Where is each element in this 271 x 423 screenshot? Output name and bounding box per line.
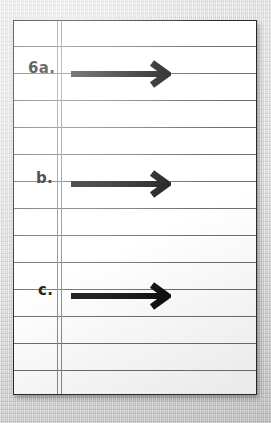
rule-line <box>14 262 256 263</box>
rule-line <box>14 100 256 101</box>
item-label-b: b. <box>36 171 53 186</box>
arrow-shaft <box>71 293 162 299</box>
arrow-shaft <box>71 71 162 77</box>
right-arrow-icon-6a <box>67 59 171 89</box>
right-arrow-icon-b <box>67 169 171 199</box>
desk-scene: 6a. b. c. <box>0 0 271 423</box>
rule-line <box>14 46 256 47</box>
item-label-c: c. <box>38 283 53 298</box>
margin-rule-right <box>61 21 62 394</box>
notebook-page: 6a. b. c. <box>13 20 257 395</box>
rule-line <box>14 316 256 317</box>
rule-line <box>14 370 256 371</box>
rule-line <box>14 127 256 128</box>
margin-rule-left <box>57 21 58 394</box>
right-arrow-icon-c <box>67 281 171 311</box>
arrow-shaft <box>71 181 162 187</box>
rule-line <box>14 154 256 155</box>
item-label-6a: 6a. <box>28 61 55 76</box>
rule-line <box>14 208 256 209</box>
rule-line <box>14 343 256 344</box>
rule-line <box>14 235 256 236</box>
